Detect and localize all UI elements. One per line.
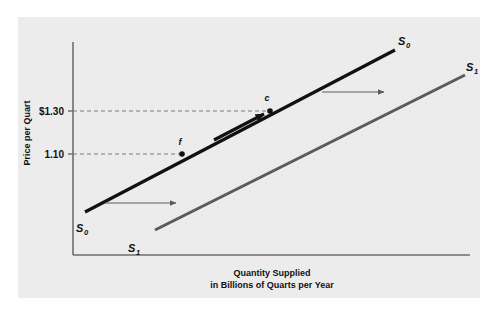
curve-label-s0-start: S — [76, 222, 84, 234]
x-axis-title-line2: in Billions of Quarts per Year — [210, 280, 334, 290]
y-tick-label-130: $1.30 — [39, 106, 64, 117]
curve-label-s1-end: S — [466, 61, 474, 73]
supply-shift-chart: c f $1.30 1.10 Price per Quart Quantity … — [0, 0, 499, 316]
y-tick-label-110: 1.10 — [45, 149, 65, 160]
x-axis-title-line1: Quantity Supplied — [233, 268, 310, 278]
point-f-label: f — [179, 137, 183, 147]
y-axis-title: Price per Quart — [22, 100, 32, 165]
curve-label-s0-end: S — [398, 35, 406, 47]
figure-root: c f $1.30 1.10 Price per Quart Quantity … — [0, 0, 499, 316]
curve-label-s1-end-sub: 1 — [474, 67, 478, 76]
curve-label-s1-start-sub: 1 — [136, 248, 140, 257]
movement-arrow-along-s0 — [214, 114, 264, 140]
curve-label-s0-end-sub: 0 — [406, 41, 411, 50]
point-c-marker — [267, 108, 273, 114]
point-f-marker — [179, 151, 185, 157]
curve-label-s1-start: S — [128, 242, 136, 254]
point-c-label: c — [264, 93, 269, 103]
curve-label-s0-start-sub: 0 — [84, 228, 89, 237]
